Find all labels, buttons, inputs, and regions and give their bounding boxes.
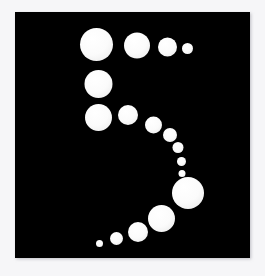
dot-07 bbox=[118, 105, 138, 125]
dot-02 bbox=[124, 33, 150, 59]
dot-03 bbox=[158, 38, 177, 57]
dot-01 bbox=[80, 28, 113, 61]
dot-11 bbox=[177, 157, 186, 166]
dot-13 bbox=[172, 177, 204, 209]
artwork-canvas bbox=[0, 0, 265, 276]
dot-04 bbox=[182, 43, 193, 54]
dot-08 bbox=[145, 117, 162, 134]
dot-14 bbox=[148, 205, 175, 232]
dot-10 bbox=[173, 142, 184, 153]
dot-15 bbox=[128, 222, 148, 242]
dot-17 bbox=[96, 240, 103, 247]
dot-06 bbox=[85, 104, 112, 131]
dot-12 bbox=[179, 170, 186, 177]
dot-09 bbox=[163, 128, 177, 142]
dot-16 bbox=[110, 232, 123, 245]
artwork-svg bbox=[0, 0, 265, 276]
dot-05 bbox=[85, 70, 113, 98]
